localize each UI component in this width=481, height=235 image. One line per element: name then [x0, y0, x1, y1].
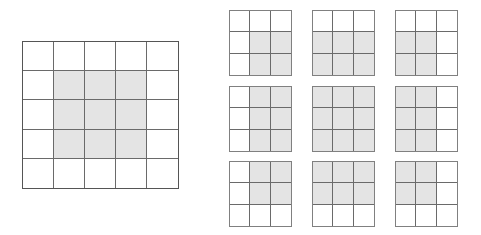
grid-cell: [437, 162, 457, 183]
grid-cell: [396, 108, 416, 129]
grid-cell: [354, 205, 374, 226]
grid-cell: [354, 183, 374, 204]
grid-cell: [354, 87, 374, 108]
grid-cell: [354, 11, 374, 32]
grid-cell: [333, 183, 353, 204]
grid-cell: [54, 100, 85, 129]
grid-cell: [85, 100, 116, 129]
grid-cell: [333, 11, 353, 32]
grid-cell: [396, 205, 416, 226]
grid-cell: [147, 100, 178, 129]
grid-cell: [416, 54, 436, 75]
grid-cell: [230, 183, 250, 204]
grid-cell: [313, 11, 333, 32]
grid-cell: [230, 54, 250, 75]
window-grid-bottom-center: [312, 161, 375, 227]
grid-cell: [116, 159, 147, 188]
grid-cell: [54, 42, 85, 71]
grid-cell: [230, 87, 250, 108]
window-grid-middle-left: [229, 86, 292, 152]
grid-cell: [271, 32, 291, 53]
grid-cell: [271, 162, 291, 183]
grid-cell: [437, 54, 457, 75]
grid-cell: [313, 162, 333, 183]
grid-cell: [396, 32, 416, 53]
grid-cell: [250, 162, 270, 183]
grid-cell: [250, 11, 270, 32]
grid-cell: [271, 205, 291, 226]
grid-cell: [333, 32, 353, 53]
grid-cell: [396, 54, 416, 75]
figure-canvas: [0, 0, 481, 235]
grid-cell: [271, 130, 291, 151]
grid-cell: [250, 108, 270, 129]
grid-cell: [271, 87, 291, 108]
grid-cell: [116, 42, 147, 71]
window-grid-middle-center: [312, 86, 375, 152]
grid-cell: [333, 54, 353, 75]
grid-cell: [250, 54, 270, 75]
grid-cell: [230, 32, 250, 53]
grid-cell: [147, 130, 178, 159]
grid-cell: [54, 159, 85, 188]
grid-cell: [23, 71, 54, 100]
grid-cell: [313, 108, 333, 129]
grid-cell: [250, 87, 270, 108]
grid-cell: [333, 162, 353, 183]
grid-cell: [437, 183, 457, 204]
grid-cell: [147, 159, 178, 188]
grid-cell: [333, 87, 353, 108]
grid-cell: [230, 205, 250, 226]
grid-cell: [354, 32, 374, 53]
source-grid: [22, 41, 179, 189]
grid-cell: [54, 71, 85, 100]
grid-cell: [313, 32, 333, 53]
grid-cell: [416, 183, 436, 204]
grid-cell: [354, 108, 374, 129]
grid-cell: [437, 130, 457, 151]
grid-cell: [313, 54, 333, 75]
grid-cell: [23, 159, 54, 188]
grid-cell: [54, 130, 85, 159]
grid-cell: [23, 42, 54, 71]
grid-cell: [116, 71, 147, 100]
grid-cell: [354, 162, 374, 183]
grid-cell: [230, 11, 250, 32]
grid-cell: [116, 100, 147, 129]
grid-cell: [85, 71, 116, 100]
window-grid-top-center: [312, 10, 375, 76]
grid-cell: [313, 130, 333, 151]
grid-cell: [437, 108, 457, 129]
window-grid-middle-right: [395, 86, 458, 152]
grid-cell: [437, 205, 457, 226]
grid-cell: [271, 183, 291, 204]
grid-cell: [271, 108, 291, 129]
grid-cell: [230, 162, 250, 183]
window-grid-bottom-right: [395, 161, 458, 227]
grid-cell: [354, 130, 374, 151]
grid-cell: [396, 130, 416, 151]
grid-cell: [230, 108, 250, 129]
grid-cell: [85, 159, 116, 188]
grid-cell: [23, 130, 54, 159]
grid-cell: [437, 32, 457, 53]
grid-cell: [85, 130, 116, 159]
grid-cell: [230, 130, 250, 151]
grid-cell: [437, 87, 457, 108]
window-grid-top-right: [395, 10, 458, 76]
grid-cell: [416, 108, 436, 129]
grid-cell: [313, 183, 333, 204]
grid-cell: [416, 205, 436, 226]
grid-cell: [250, 183, 270, 204]
grid-cell: [116, 130, 147, 159]
grid-cell: [250, 130, 270, 151]
grid-cell: [416, 162, 436, 183]
window-grid-top-left: [229, 10, 292, 76]
grid-cell: [354, 54, 374, 75]
grid-cell: [333, 108, 353, 129]
grid-cell: [396, 87, 416, 108]
grid-cell: [85, 42, 116, 71]
grid-cell: [416, 130, 436, 151]
grid-cell: [333, 130, 353, 151]
grid-cell: [147, 71, 178, 100]
